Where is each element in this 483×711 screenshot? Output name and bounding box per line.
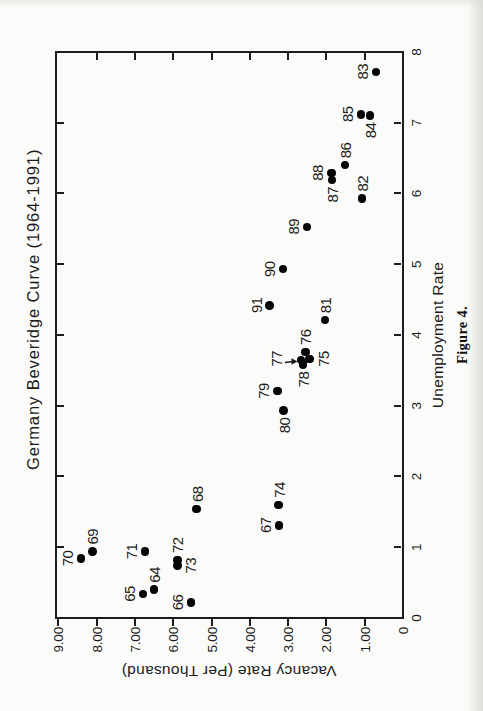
data-point-73 — [173, 561, 182, 570]
x-tick-label: 7 — [409, 108, 424, 138]
figure-rotated-container: Germany Beveridge Curve (1964-1991) 0123… — [18, 43, 478, 683]
point-label-64: 64 — [147, 567, 162, 583]
point-label-80: 80 — [276, 418, 291, 434]
point-label-90: 90 — [262, 261, 277, 277]
y-tick-right — [287, 53, 289, 60]
point-label-74: 74 — [271, 482, 286, 498]
x-tick-label: 3 — [409, 391, 424, 421]
label-arrow-77 — [284, 355, 300, 369]
data-point-67 — [275, 521, 284, 530]
x-tick-label: 6 — [409, 179, 424, 209]
plot-frame — [55, 51, 404, 619]
y-tick-right — [325, 53, 327, 60]
point-label-75: 75 — [316, 351, 331, 367]
y-tick-right — [249, 53, 251, 60]
y-tick-right — [172, 53, 174, 60]
y-tick-right — [211, 53, 213, 60]
point-label-88: 88 — [310, 165, 325, 181]
y-tick-right — [364, 53, 366, 60]
x-tick-label: 8 — [409, 37, 424, 67]
x-tick-label: 0 — [409, 603, 424, 633]
x-tick-bottom — [394, 546, 401, 548]
x-tick-bottom — [394, 405, 401, 407]
x-tick-label: 4 — [409, 320, 424, 350]
data-point-79 — [273, 387, 282, 396]
x-tick-top — [57, 193, 64, 195]
point-label-73: 73 — [183, 558, 198, 574]
x-tick-top — [57, 334, 64, 336]
point-label-79: 79 — [256, 383, 271, 399]
point-label-81: 81 — [317, 298, 332, 314]
y-axis-label: Vacancy Rate (Per Thousand) — [119, 662, 339, 680]
x-tick-label: 5 — [409, 249, 424, 279]
point-label-82: 82 — [355, 176, 370, 192]
point-label-71: 71 — [124, 544, 139, 560]
point-label-67: 67 — [258, 518, 273, 534]
y-tick-left — [57, 619, 59, 626]
y-tick-label: 1.00 — [358, 627, 373, 683]
point-label-86: 86 — [337, 143, 352, 159]
data-point-80 — [279, 406, 288, 415]
y-tick-label: 8.00 — [90, 627, 105, 683]
y-tick-right — [96, 53, 98, 60]
x-tick-top — [57, 546, 64, 548]
y-tick-label: 9.00 — [51, 627, 66, 683]
data-point-83 — [372, 68, 381, 77]
y-tick-left — [325, 619, 327, 626]
x-tick-bottom — [394, 476, 401, 478]
point-label-77: 77 — [269, 351, 284, 367]
x-tick-bottom — [394, 193, 401, 195]
data-point-82 — [358, 194, 367, 203]
y-tick-left — [172, 619, 174, 626]
y-tick-left — [249, 619, 251, 626]
beveridge-figure: Germany Beveridge Curve (1964-1991) 0123… — [18, 43, 478, 683]
data-point-74 — [274, 501, 283, 510]
data-point-76 — [301, 348, 310, 357]
data-point-70 — [77, 554, 86, 563]
x-tick-top — [57, 122, 64, 124]
x-tick-top — [57, 263, 64, 265]
y-tick-left — [287, 619, 289, 626]
data-point-85 — [357, 110, 366, 119]
y-tick-left — [211, 619, 213, 626]
chart-title: Germany Beveridge Curve (1964-1991) — [24, 149, 43, 470]
y-tick-left — [96, 619, 98, 626]
x-axis-label: Unemployment Rate — [429, 235, 447, 435]
x-tick-bottom — [394, 334, 401, 336]
point-label-87: 87 — [325, 187, 340, 203]
point-label-78: 78 — [296, 372, 311, 388]
point-label-72: 72 — [170, 538, 185, 554]
scan-shadow-right-edge — [467, 0, 483, 711]
point-label-70: 70 — [60, 551, 75, 567]
data-point-88 — [327, 169, 336, 178]
point-label-84: 84 — [363, 123, 378, 139]
x-tick-label: 1 — [409, 532, 424, 562]
x-tick-bottom — [394, 122, 401, 124]
point-label-85: 85 — [340, 107, 355, 123]
point-label-68: 68 — [189, 487, 204, 503]
scanned-page: Germany Beveridge Curve (1964-1991) 0123… — [0, 0, 483, 711]
scan-shadow-top — [0, 0, 483, 8]
x-tick-top — [57, 405, 64, 407]
x-tick-top — [57, 476, 64, 478]
point-label-66: 66 — [170, 595, 185, 611]
x-tick-bottom — [394, 263, 401, 265]
y-tick-left — [134, 619, 136, 626]
point-label-69: 69 — [85, 529, 100, 545]
point-label-65: 65 — [122, 586, 137, 602]
data-point-68 — [192, 505, 201, 514]
data-point-89 — [303, 223, 312, 232]
point-label-89: 89 — [286, 219, 301, 235]
y-tick-left — [364, 619, 366, 626]
data-point-69 — [88, 547, 97, 556]
point-label-91: 91 — [249, 298, 264, 314]
point-label-83: 83 — [355, 64, 370, 80]
data-point-91 — [265, 301, 274, 310]
y-tick-right — [134, 53, 136, 60]
data-point-66 — [187, 598, 196, 607]
point-label-76: 76 — [298, 329, 313, 345]
x-tick-label: 2 — [409, 462, 424, 492]
y-tick-label: 0 — [396, 627, 411, 683]
